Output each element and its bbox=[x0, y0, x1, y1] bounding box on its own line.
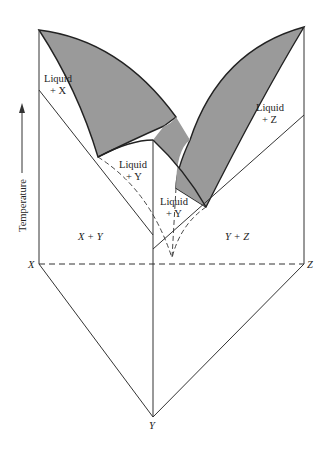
vertex-z: Z bbox=[307, 259, 313, 270]
label-y-plus-z: Y + Z bbox=[225, 231, 249, 242]
temperature-label: Temperature bbox=[17, 179, 28, 232]
label-liquid-z-2: + Z bbox=[262, 114, 277, 125]
label-liquid-y-center-1: Liquid bbox=[160, 196, 189, 207]
label-liquid-x-1: Liquid bbox=[44, 73, 73, 84]
liquidus-surface-right bbox=[176, 27, 304, 207]
zy-base bbox=[153, 264, 304, 417]
xy-base bbox=[39, 264, 153, 417]
label-liquid-y-left-1: Liquid bbox=[119, 159, 148, 170]
label-liquid-z-1: Liquid bbox=[256, 102, 285, 113]
label-liquid-x-2: + X bbox=[50, 85, 67, 96]
label-liquid-y-center-2: + Y bbox=[166, 208, 182, 219]
phase-diagram: Temperature Liquid + X Liquid + Y Liquid… bbox=[0, 0, 331, 453]
arrow-head-icon bbox=[19, 103, 25, 113]
vertex-y: Y bbox=[149, 420, 156, 431]
label-x-plus-y: X + Y bbox=[77, 231, 104, 242]
vertex-x: X bbox=[27, 259, 35, 270]
label-liquid-y-left-2: + Y bbox=[126, 171, 142, 182]
